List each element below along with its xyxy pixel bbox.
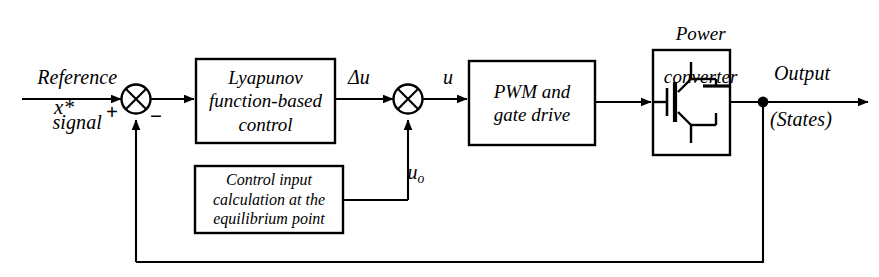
- output-tap-node: [758, 97, 769, 108]
- u-label: u: [443, 66, 453, 88]
- block-control-input-calculation-text: Control input calculation at the equilib…: [195, 166, 343, 233]
- control-input-line-2: calculation at the: [213, 190, 325, 210]
- summing-junction-1-minus-sign: −: [150, 104, 162, 129]
- u-o-label: uo: [387, 139, 424, 209]
- block-lyapunov-control-text: Lyapunov function-based control: [196, 59, 335, 143]
- power-converter-title: Power converter: [628, 2, 754, 108]
- power-converter-line2: converter: [664, 66, 738, 87]
- control-input-line-1: Control input: [226, 170, 312, 190]
- reference-symbol-label: x*: [34, 96, 94, 120]
- power-converter-line1: Power: [676, 23, 726, 44]
- block-pwm-gate-drive-text: PWM and gate drive: [469, 61, 595, 145]
- lyapunov-line-1: Lyapunov: [228, 66, 302, 89]
- u-o-subscript: o: [418, 171, 425, 186]
- u-o-base: u: [407, 161, 417, 183]
- lyapunov-line-3: control: [238, 113, 292, 136]
- lyapunov-line-2: function-based: [209, 89, 322, 112]
- reference-signal-line1: Reference: [37, 66, 117, 88]
- summing-junction-1-plus-sign: +: [106, 100, 118, 125]
- pwm-line-1: PWM and: [494, 80, 571, 103]
- block-diagram-canvas: Reference signal x* + − Lyapunov functio…: [0, 0, 879, 277]
- pwm-line-2: gate drive: [494, 103, 571, 126]
- output-states-label: (States): [770, 108, 832, 130]
- delta-u-label: Δu: [348, 66, 370, 88]
- control-input-line-3: equilibrium point: [213, 209, 325, 229]
- output-label: Output: [774, 62, 830, 84]
